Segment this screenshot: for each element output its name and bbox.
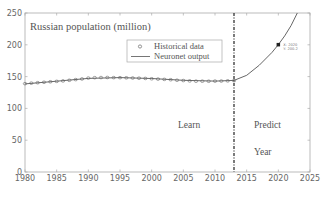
x-tick-label: 1990 [78,174,98,183]
x-tick-label: 2010 [205,174,225,183]
x-tick-label: 2005 [173,174,193,183]
datatip-marker[interactable] [277,43,281,47]
legend: Historical data Neuronet output [127,40,222,62]
y-tick-label: 200 [7,41,22,50]
x-tick-label: 2000 [141,174,161,183]
datatip-y: Y: 200.2 [283,47,297,51]
x-tick-label: 1985 [46,174,66,183]
legend-neuronet: Neuronet output [154,51,210,61]
year-label: Year [254,147,272,157]
y-tick-label: 100 [7,104,22,113]
learn-label: Learn [178,120,200,130]
x-tick-label: 1995 [110,174,130,183]
y-tick-label: 0 [17,168,22,177]
predict-label: Predict [254,120,281,130]
y-tick-label: 50 [12,136,22,145]
y-tick-label: 250 [7,9,22,18]
x-tick-label: 2025 [300,174,320,183]
x-tick-label: 2015 [236,174,256,183]
population-chart: 1980198519901995200020052010201520202025… [0,0,324,207]
chart-title: Russian population (million) [30,21,151,33]
y-tick-label: 150 [7,73,22,82]
legend-historical: Historical data [154,41,204,51]
x-tick-label: 2020 [268,174,288,183]
